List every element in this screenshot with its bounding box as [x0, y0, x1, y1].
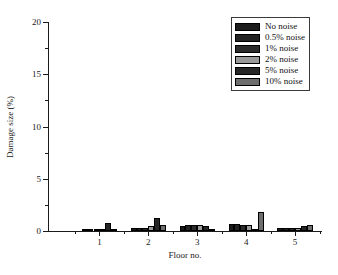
legend-swatch [235, 78, 260, 86]
x-tick-mark [246, 231, 247, 236]
x-tick-mark [271, 231, 272, 234]
x-axis-title: Floor no. [48, 250, 322, 260]
legend-label: 1% noise [265, 44, 298, 53]
legend-item: 0.5% noise [235, 32, 305, 43]
legend-item: No noise [235, 21, 305, 32]
y-tick-label: 15 [32, 70, 41, 79]
bar-chart-figure: Damage size (%) 0510152012345 Floor no. … [0, 0, 338, 275]
y-tick-mark [43, 179, 48, 180]
x-tick-label: 4 [244, 238, 249, 247]
x-tick-mark [222, 231, 223, 234]
y-tick-label: 5 [37, 174, 42, 183]
x-tick-label: 2 [146, 238, 151, 247]
legend-swatch [235, 45, 260, 53]
legend-label: No noise [265, 22, 297, 31]
x-tick-mark [320, 231, 321, 234]
legend-item: 2% noise [235, 54, 305, 65]
y-tick-label: 0 [37, 227, 42, 236]
legend-item: 5% noise [235, 65, 305, 76]
x-tick-mark [124, 231, 125, 234]
bar [160, 225, 166, 231]
y-tick-mark [43, 231, 48, 232]
y-tick-mark [43, 74, 48, 75]
bar [209, 229, 215, 231]
bar [111, 229, 117, 231]
legend-item: 1% noise [235, 43, 305, 54]
x-axis-line [48, 231, 322, 232]
legend-swatch [235, 23, 260, 31]
x-tick-mark [295, 231, 296, 236]
x-tick-mark [173, 231, 174, 234]
y-tick-mark [43, 22, 48, 23]
legend-item: 10% noise [235, 76, 305, 87]
legend-swatch [235, 34, 260, 42]
legend-swatch [235, 56, 260, 64]
legend-label: 2% noise [265, 55, 298, 64]
y-tick-mark [45, 205, 48, 206]
x-tick-mark [99, 231, 100, 236]
x-tick-label: 5 [293, 238, 298, 247]
legend-label: 0.5% noise [265, 33, 305, 42]
legend-swatch [235, 67, 260, 75]
y-tick-mark [45, 153, 48, 154]
bar [307, 225, 313, 231]
y-tick-label: 10 [32, 122, 41, 131]
y-tick-mark [45, 48, 48, 49]
y-axis-title: Damage size (%) [4, 22, 16, 231]
bar [258, 212, 264, 231]
x-tick-label: 1 [97, 238, 102, 247]
y-axis-title-text: Damage size (%) [5, 96, 15, 158]
chart-legend: No noise0.5% noise1% noise2% noise5% noi… [231, 17, 310, 91]
x-tick-mark [197, 231, 198, 236]
x-tick-mark [75, 231, 76, 234]
legend-label: 10% noise [265, 77, 303, 86]
x-tick-label: 3 [195, 238, 200, 247]
x-tick-mark [148, 231, 149, 236]
y-tick-mark [45, 100, 48, 101]
y-tick-mark [43, 127, 48, 128]
y-tick-label: 20 [32, 18, 41, 27]
legend-label: 5% noise [265, 66, 298, 75]
